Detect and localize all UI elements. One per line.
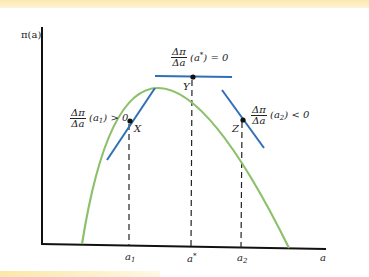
point-z	[240, 117, 245, 122]
profit-diagram	[0, 0, 369, 277]
annotation-slope-positive: ΔπΔa (a1) > 0	[70, 108, 128, 129]
y-axis-label: π(a)	[21, 30, 41, 40]
tick-a1: a1	[125, 252, 135, 264]
tick-a2: a2	[237, 253, 247, 265]
dashed-line-astar	[191, 80, 192, 247]
tick-astar: a*	[187, 253, 196, 264]
annotation-slope-zero: ΔπΔa (a*) = 0	[171, 47, 228, 68]
point-label-y: Y	[183, 82, 190, 92]
x-axis-label: a	[320, 253, 326, 263]
point-label-z: Z	[232, 124, 239, 134]
point-label-x: X	[134, 124, 141, 134]
dashed-line-a2	[241, 122, 242, 248]
annotation-slope-negative: ΔπΔa (a2) < 0	[251, 105, 309, 126]
point-y	[190, 74, 195, 79]
x-axis	[41, 244, 326, 249]
